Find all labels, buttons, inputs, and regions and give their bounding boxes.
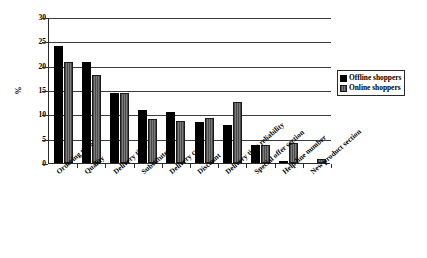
x-axis-tick-mark [162,164,163,168]
y-axis-tick-mark [42,115,48,116]
bar-online [120,93,129,163]
y-axis-tick-mark [42,164,48,165]
x-axis-tick-mark [275,164,276,168]
legend-label-online: Online shoppers [349,84,401,92]
y-axis-tick-mark [42,67,48,68]
y-axis-tick-mark [42,42,48,43]
chart-legend: Offline shoppers Online shoppers [337,70,405,96]
y-axis-tick-labels: 051015202530 [22,0,46,258]
x-axis-tick-mark [246,164,247,168]
x-axis-tick-mark [105,164,106,168]
bar-group [223,17,242,163]
legend-item-online-shoppers: Online shoppers [340,83,401,93]
legend-label-offline: Offline shoppers [349,74,401,82]
legend-swatch-online-icon [340,85,347,92]
x-axis-tick-mark [218,164,219,168]
bar-group [138,17,157,163]
legend-swatch-offline-icon [340,75,347,82]
bar-online [64,62,73,163]
y-axis-tick-mark [42,140,48,141]
y-axis-tick-mark [42,91,48,92]
x-axis-tick-mark [303,164,304,168]
y-axis-tick-mark [42,18,48,19]
bar-offline [110,93,119,163]
bar-chart-figure: % 051015202530 Ordering timeQualityDeliv… [0,0,427,258]
bar-group [195,17,214,163]
x-axis-tick-mark [190,164,191,168]
x-axis-tick-mark [134,164,135,168]
bar-group [166,17,185,163]
bar-group [110,17,129,163]
legend-item-offline-shoppers: Offline shoppers [340,73,401,83]
bar-online [92,75,101,163]
bar-offline [223,125,232,163]
bar-offline [54,46,63,163]
x-axis-tick-mark [331,164,332,168]
x-axis-tick-mark [77,164,78,168]
bar-group [54,17,73,163]
